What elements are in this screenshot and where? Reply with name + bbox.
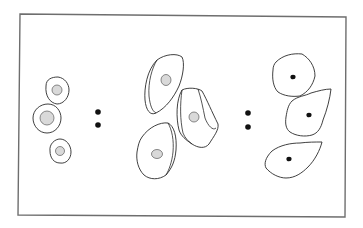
middle-group [137,55,218,179]
separator-2 [245,110,251,130]
separator-dot [245,124,251,130]
diagram-canvas [0,0,363,228]
cell-right-top [273,54,315,97]
cell-left-bottom [50,139,71,163]
nucleus [40,111,54,125]
cell-middle-right [177,88,218,147]
cell-diagram [0,0,363,228]
right-group [265,54,331,178]
left-group [33,77,71,163]
nucleus [152,150,163,159]
separator-1 [95,109,101,128]
pyknotic-nucleus [306,113,311,118]
nucleus [56,147,65,156]
separator-dot [95,122,101,128]
nucleus [161,75,171,86]
separator-dot [245,110,251,116]
pyknotic-nucleus [286,157,291,162]
cell-middle-bottom [137,123,176,179]
cell-left-middle [33,104,61,133]
pyknotic-nucleus [290,75,295,80]
cell-left-top [46,77,69,104]
separator-dot [95,109,101,115]
nucleus [52,85,62,95]
cell-right-bottom [265,142,322,178]
cell-membrane [265,142,322,178]
nucleus [189,112,199,122]
